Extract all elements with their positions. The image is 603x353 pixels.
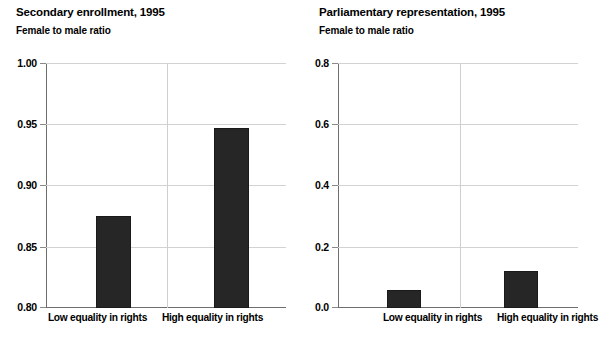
- ytick-label-right-4: 0.2: [315, 241, 329, 253]
- chart-title-right: Parliamentary representation, 1995: [319, 6, 505, 18]
- tick-left-5: [40, 307, 46, 308]
- tick-right-4: [332, 247, 338, 248]
- xtick-label-right-high: High equality in rights: [460, 312, 603, 323]
- tick-right-2: [332, 124, 338, 125]
- bar-low-equality-enrollment: [96, 216, 131, 308]
- ytick-label-left-2: 0.95: [17, 118, 37, 130]
- tick-right-1: [332, 63, 338, 64]
- chart-subtitle-left: Female to male ratio: [16, 25, 111, 36]
- plot-area-left: 1.00 0.95 0.90 0.85 0.80: [46, 63, 286, 308]
- gridline-left-4: [46, 247, 286, 248]
- ytick-label-left-4: 0.85: [17, 241, 37, 253]
- ytick-label-right-3: 0.4: [315, 179, 329, 191]
- gridline-right-1: [338, 63, 578, 64]
- chart-subtitle-right: Female to male ratio: [319, 25, 414, 36]
- tick-left-4: [40, 247, 46, 248]
- tick-right-5: [332, 307, 338, 308]
- ytick-label-right-1: 0.8: [315, 57, 329, 69]
- panel-secondary-enrollment: Secondary enrollment, 1995 Female to mal…: [0, 0, 295, 353]
- gridline-left-2: [46, 124, 286, 125]
- tick-right-3: [332, 185, 338, 186]
- ytick-label-left-1: 1.00: [17, 57, 37, 69]
- ytick-label-left-3: 0.90: [17, 179, 37, 191]
- bar-low-equality-parliament: [387, 290, 421, 308]
- bar-high-equality-parliament: [504, 271, 538, 308]
- gridline-right-3: [338, 185, 578, 186]
- tick-left-3: [40, 185, 46, 186]
- ytick-label-right-5: 0.0: [315, 301, 329, 313]
- xtick-label-left-high: High equality in rights: [125, 312, 300, 323]
- gridline-right-2: [338, 124, 578, 125]
- category-divider-right: [460, 63, 461, 308]
- bar-high-equality-enrollment: [214, 128, 249, 308]
- gridline-left-1: [46, 63, 286, 64]
- category-divider-left: [167, 63, 168, 308]
- plot-area-right: 0.8 0.6 0.4 0.2 0.0: [338, 63, 578, 308]
- chart-title-left: Secondary enrollment, 1995: [16, 6, 165, 18]
- ytick-label-right-2: 0.6: [315, 118, 329, 130]
- tick-left-2: [40, 124, 46, 125]
- gridline-right-4: [338, 247, 578, 248]
- tick-left-1: [40, 63, 46, 64]
- gridline-left-3: [46, 185, 286, 186]
